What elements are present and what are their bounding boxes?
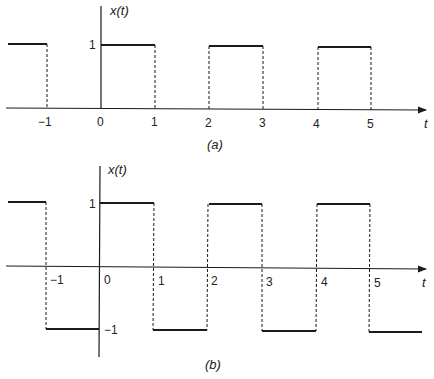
signal-segments-a — [8, 44, 371, 47]
x-tick-2-b: 2 — [211, 274, 218, 288]
caption-a: (a) — [207, 137, 223, 152]
x-tick-3-a: 3 — [259, 116, 266, 130]
x-tick-5-a: 5 — [367, 117, 374, 131]
y-axis-b — [99, 166, 100, 357]
panel-a: x(t) 1 −1 0 1 2 3 4 5 t (a) — [6, 3, 429, 152]
x-tick-4-a: 4 — [313, 117, 320, 131]
x-axis-b — [6, 266, 426, 269]
x-tick-4-b: 4 — [321, 275, 328, 289]
y-tick-1-a: 1 — [89, 38, 96, 52]
transition-dashes-a — [47, 44, 371, 110]
x-axis-a — [6, 108, 426, 110]
x-tick-neg1-a: −1 — [38, 115, 52, 129]
x-tick-1-b: 1 — [158, 274, 165, 288]
y-tick-neg1-b: −1 — [104, 323, 118, 337]
x-label-a: t — [424, 116, 429, 131]
x-tick-2-a: 2 — [205, 116, 212, 130]
x-tick-0-b: 0 — [104, 273, 111, 287]
square-wave-figure: x(t) 1 −1 0 1 2 3 4 5 t (a) — [0, 0, 434, 379]
y-tick-1-b: 1 — [89, 197, 96, 211]
x-tick-neg1-b: −1 — [50, 273, 64, 287]
panel-b: x(t) 1 −1 −1 0 1 2 3 4 5 t (b) — [6, 162, 427, 372]
x-tick-5-b: 5 — [374, 276, 381, 290]
y-label-a: x(t) — [109, 3, 129, 18]
x-label-b: t — [422, 275, 427, 290]
x-tick-3-b: 3 — [266, 275, 273, 289]
x-tick-1-a: 1 — [151, 115, 158, 129]
y-label-b: x(t) — [107, 162, 127, 177]
caption-b: (b) — [205, 357, 221, 372]
x-tick-0-a: 0 — [97, 115, 104, 129]
